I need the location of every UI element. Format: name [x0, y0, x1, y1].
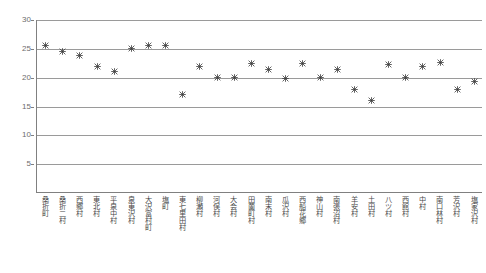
data-point: [265, 66, 272, 73]
y-tick-label: 5: [1, 159, 31, 168]
x-tick-label-text: 南張沼村: [332, 196, 340, 224]
x-tick-label-text: 東北村: [92, 196, 100, 217]
data-point: [145, 42, 152, 49]
x-tick-label-text: 大沢富村町: [143, 196, 151, 231]
data-point: [76, 52, 83, 59]
x-tick-label-text: 塩町: [160, 196, 168, 210]
x-tick-label: 南口林村: [435, 196, 444, 224]
x-tick-label: 神山村: [315, 196, 324, 217]
x-tick-label: 大会村: [229, 196, 238, 217]
x-tick-label-text: 塩家沢村: [469, 196, 477, 224]
x-tick-label: 羊安村: [349, 196, 358, 217]
x-tick-label-text: 東七里田村: [178, 196, 186, 231]
x-tick-label-text: 田薗町村: [246, 196, 254, 224]
x-tick-label: 桑折二村: [57, 196, 66, 224]
x-tick-label: 田薗町村: [246, 196, 255, 224]
data-point: [162, 42, 169, 49]
x-axis-labels: 桑折町桑折二村西郷村東北村平泉中村泉東沢村大沢富村町塩町東七里田村柳瀬村河俣村大…: [36, 196, 482, 273]
x-tick-label: 瓜沢村: [280, 196, 289, 217]
x-tick-label-text: 柳瀬村: [195, 196, 203, 217]
x-tick-label: 西郷村: [74, 196, 83, 217]
x-tick-label-text: 平泉中村: [109, 196, 117, 224]
x-tick-label-text: 瓜沢村: [281, 196, 289, 217]
gridline-20: [37, 78, 482, 79]
x-tick-label: 桑折町: [40, 196, 49, 217]
data-point: [437, 59, 444, 66]
gridline-10: [37, 135, 482, 136]
gridline-25: [37, 49, 482, 50]
x-tick-label-text: 芳沢村: [452, 196, 460, 217]
data-point: [179, 91, 186, 98]
x-tick-label: 中村: [417, 196, 426, 210]
x-tick-label: 大沢富村町: [143, 196, 152, 231]
x-tick-label: 東北村: [92, 196, 101, 217]
x-tick-label: 土田村: [366, 196, 375, 217]
data-point: [196, 63, 203, 70]
x-tick-label-text: 桑折町: [40, 196, 48, 217]
x-tick-label-text: 神山村: [315, 196, 323, 217]
x-tick-label: 柳瀬村: [194, 196, 203, 217]
gridline-30: [37, 20, 482, 21]
data-point: [282, 75, 289, 82]
x-tick-label-text: 桑折二村: [58, 196, 66, 224]
data-point: [334, 66, 341, 73]
x-tick-label: 八ツ村: [383, 196, 392, 217]
y-tick-mark: [31, 49, 34, 50]
x-tick-label-text: 八ツ村: [383, 196, 391, 217]
x-tick-label: 南張沼村: [332, 196, 341, 224]
x-tick-label: 西船花郷: [297, 196, 306, 224]
data-point: [351, 86, 358, 93]
y-tick-mark: [31, 20, 34, 21]
x-tick-label-text: 南末村: [263, 196, 271, 217]
x-tick-label: 河俣村: [212, 196, 221, 217]
x-tick-label-text: 羊安村: [349, 196, 357, 217]
gridline-15: [37, 107, 482, 108]
data-point: [385, 61, 392, 68]
x-tick-label-text: 西郷村: [75, 196, 83, 217]
x-tick-label: 塩町: [160, 196, 169, 210]
x-tick-label-text: 南口林村: [435, 196, 443, 224]
x-tick-label-text: 大会村: [229, 196, 237, 217]
gridline-5: [37, 164, 482, 165]
y-tick-label: 15: [1, 102, 31, 111]
y-tick-mark: [31, 164, 34, 165]
x-tick-label-text: 泉東沢村: [126, 196, 134, 224]
y-tick-label: 25: [1, 44, 31, 53]
data-point: [419, 63, 426, 70]
x-tick-label: 泉東沢村: [126, 196, 135, 224]
data-point: [111, 68, 118, 75]
data-point: [471, 78, 478, 85]
y-tick-label: 30: [1, 15, 31, 24]
x-tick-label-text: 土田村: [366, 196, 374, 217]
y-tick-label: 20: [1, 73, 31, 82]
data-point: [248, 60, 255, 67]
x-tick-label: 塩家沢村: [469, 196, 478, 224]
y-tick-mark: [31, 107, 34, 108]
y-tick-mark: [31, 78, 34, 79]
scatter-chart: 51015202530 桑折町桑折二村西郷村東北村平泉中村泉東沢村大沢富村町塩町…: [0, 0, 486, 273]
y-tick-label: 10: [1, 130, 31, 139]
x-tick-label: 平泉中村: [109, 196, 118, 224]
data-point: [94, 63, 101, 70]
x-tick-label-text: 西館村: [401, 196, 409, 217]
x-tick-label: 南末村: [263, 196, 272, 217]
y-axis-labels: 51015202530: [0, 0, 34, 193]
x-tick-label: 東七里田村: [177, 196, 186, 231]
data-point: [454, 86, 461, 93]
data-point: [299, 60, 306, 67]
x-tick-label-text: 中村: [418, 196, 426, 210]
x-tick-label-text: 西船花郷: [298, 196, 306, 224]
plot-area: [36, 20, 482, 193]
x-tick-label: 芳沢村: [452, 196, 461, 217]
y-tick-mark: [31, 135, 34, 136]
data-point: [368, 97, 375, 104]
x-tick-label: 西館村: [400, 196, 409, 217]
x-tick-label-text: 河俣村: [212, 196, 220, 217]
